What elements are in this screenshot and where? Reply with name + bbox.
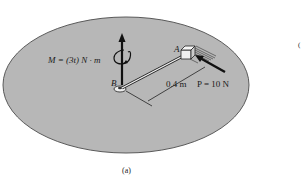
- force-label: P = 10 N: [197, 79, 229, 89]
- diagram-canvas: M = (3t) N · m A B 0.4 m P = 10 N (a) (: [0, 0, 301, 177]
- block-a-icon: [181, 46, 195, 59]
- margin-mark: (: [298, 41, 301, 49]
- distance-label: 0.4 m: [166, 79, 187, 89]
- point-a-label: A: [173, 44, 180, 54]
- moment-label: M = (3t) N · m: [47, 55, 101, 65]
- point-b-label: B: [111, 78, 117, 88]
- figure-caption: (a): [122, 166, 131, 175]
